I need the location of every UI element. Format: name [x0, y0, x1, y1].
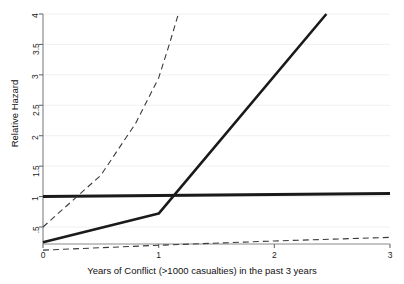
plot-canvas	[0, 0, 404, 284]
x-tick-label: 1	[149, 251, 169, 260]
x-tick-label: 3	[380, 251, 400, 260]
x-tick-label: 2	[264, 251, 284, 260]
x-axis-title: Years of Conflict (>1000 casualties) in …	[0, 265, 404, 276]
x-tick-label: 0	[33, 251, 53, 260]
relative-hazard-chart: .511.522.533.54 0123 Relative Hazard Yea…	[0, 0, 404, 284]
series-hazard-estimate	[43, 14, 326, 242]
y-tick-label: 1	[32, 196, 41, 201]
y-tick-label: .5	[32, 226, 41, 233]
y-axis-title: Relative Hazard	[9, 74, 20, 154]
y-tick-label: 4	[32, 13, 41, 18]
y-tick-label: 2	[32, 135, 41, 140]
y-tick-label: 3.5	[32, 44, 41, 56]
tick-marks	[39, 14, 390, 248]
axis-lines	[43, 14, 390, 244]
y-tick-label: 2.5	[32, 105, 41, 117]
y-tick-label: 1.5	[32, 165, 41, 177]
data-series	[43, 14, 390, 250]
y-tick-label: 3	[32, 74, 41, 79]
